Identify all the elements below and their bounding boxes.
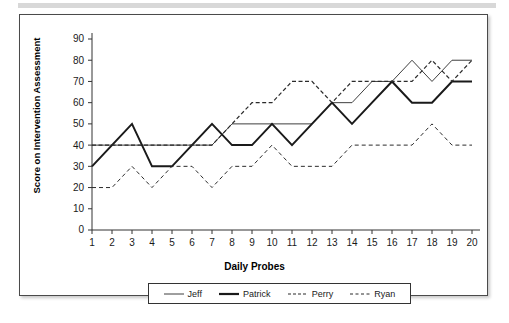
y-tick-label: 90	[73, 33, 85, 44]
legend-entry-jeff[interactable]: Jeff	[164, 289, 202, 299]
legend-label: Perry	[312, 289, 334, 299]
x-tick-label: 9	[249, 237, 255, 248]
y-tick-label: 30	[73, 161, 85, 172]
y-tick-label: 60	[73, 97, 85, 108]
x-tick-label: 3	[129, 237, 135, 248]
y-axis-title: Score on Intervention Assessment	[31, 16, 42, 216]
x-tick-label: 11	[287, 237, 298, 248]
x-tick-label: 20	[466, 237, 478, 248]
legend-entry-patrick[interactable]: Patrick	[219, 289, 271, 299]
legend-entry-ryan[interactable]: Ryan	[350, 289, 395, 299]
chart-plot-area: 0102030405060708090123456789101112131415…	[20, 15, 489, 297]
chart-axes	[92, 33, 480, 230]
y-tick-label: 20	[73, 182, 85, 193]
x-tick-label: 10	[266, 237, 278, 248]
dashed-long-line-icon	[350, 290, 370, 298]
x-tick-label: 1	[89, 237, 95, 248]
solid-thick-line-icon	[219, 290, 239, 298]
x-tick-label: 19	[446, 237, 458, 248]
y-tick-label: 40	[73, 140, 85, 151]
x-axis-ticks: 1234567891011121314151617181920	[89, 230, 478, 248]
y-tick-label: 0	[78, 224, 84, 235]
dashed-short-line-icon	[288, 290, 308, 298]
chart-legend: JeffPatrickPerryRyan	[148, 283, 411, 304]
line-chart-svg: 0102030405060708090123456789101112131415…	[20, 15, 489, 297]
y-axis-ticks: 0102030405060708090	[73, 33, 92, 235]
x-tick-label: 12	[306, 237, 318, 248]
x-tick-label: 16	[386, 237, 398, 248]
x-tick-label: 13	[326, 237, 338, 248]
x-tick-label: 14	[346, 237, 358, 248]
legend-entry-perry[interactable]: Perry	[288, 289, 334, 299]
x-tick-label: 5	[169, 237, 175, 248]
x-tick-label: 4	[149, 237, 155, 248]
x-axis-title: Daily Probes	[20, 261, 489, 272]
x-tick-label: 6	[189, 237, 195, 248]
y-tick-label: 50	[73, 118, 85, 129]
legend-label: Ryan	[374, 289, 395, 299]
x-tick-label: 2	[109, 237, 115, 248]
page-top-rule	[18, 3, 496, 8]
y-tick-label: 80	[73, 55, 85, 66]
solid-thin-line-icon	[164, 290, 184, 298]
y-tick-label: 10	[73, 203, 85, 214]
x-tick-label: 15	[366, 237, 378, 248]
legend-label: Jeff	[188, 289, 202, 299]
figure-root: 0102030405060708090123456789101112131415…	[0, 0, 509, 323]
legend-label: Patrick	[243, 289, 271, 299]
x-tick-label: 8	[229, 237, 235, 248]
x-tick-label: 18	[426, 237, 438, 248]
y-tick-label: 70	[73, 76, 85, 87]
x-tick-label: 7	[209, 237, 215, 248]
chart-figure-frame: 0102030405060708090123456789101112131415…	[19, 14, 488, 296]
x-tick-label: 17	[406, 237, 418, 248]
